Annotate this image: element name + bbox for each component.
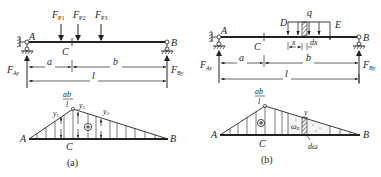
peak-denominator: l xyxy=(66,100,69,109)
dim-b: b xyxy=(113,56,118,67)
support-label-a: A xyxy=(220,25,228,36)
beam-a: A B C FP1 FP2 xyxy=(6,9,184,88)
influence-line-b: ab l y ωE dω A B C xyxy=(210,87,369,151)
load-label-q: q xyxy=(307,7,312,18)
support-label-a: A xyxy=(28,31,36,42)
load-fp2: FP2 xyxy=(72,9,85,40)
il-label-c: C xyxy=(259,138,266,149)
ordinate-y1: y1 xyxy=(52,109,59,118)
dim-x: x xyxy=(291,38,296,47)
beam-b: A B C D xyxy=(199,7,376,84)
ordinate-y2: y2 xyxy=(78,101,86,110)
il-label-b: B xyxy=(170,133,176,144)
figure-a: A B C FP1 FP2 xyxy=(6,9,184,169)
reaction-by: FBy xyxy=(170,64,184,76)
reaction-by: FBy xyxy=(362,59,376,71)
section-label-c: C xyxy=(254,41,261,52)
caption-b: (b) xyxy=(261,154,273,166)
il-label-b: B xyxy=(363,129,369,140)
dim-l: l xyxy=(92,70,95,81)
svg-text:FP3: FP3 xyxy=(94,9,107,21)
load-fp1: FP1 xyxy=(51,9,64,40)
support-label-b: B xyxy=(171,37,177,48)
differential-area: dω xyxy=(308,142,318,151)
load-start-d: D xyxy=(279,17,288,28)
influence-line-figure: A B C FP1 FP2 xyxy=(0,0,381,177)
positive-sign-icon xyxy=(84,123,91,130)
reaction-ay: FAy xyxy=(6,64,19,76)
il-label-a: A xyxy=(19,133,27,144)
peak-denominator: l xyxy=(258,97,261,106)
section-label-c: C xyxy=(62,46,69,57)
ordinate-y: y xyxy=(303,108,308,117)
ordinate-y3: y3 xyxy=(102,107,110,116)
support-label-b: B xyxy=(363,32,369,43)
peak-numerator: ab xyxy=(255,87,263,96)
il-label-a: A xyxy=(210,129,218,140)
dim-l: l xyxy=(285,68,288,79)
reaction-ay: FAy xyxy=(199,59,212,71)
svg-text:FP2: FP2 xyxy=(72,9,85,21)
dim-b: b xyxy=(306,52,311,63)
figure-b: A B C D xyxy=(199,7,376,166)
influence-line-a: ab l y1 y2 y3 A B C xyxy=(19,90,176,152)
il-label-c: C xyxy=(66,141,73,152)
caption-a: (a) xyxy=(67,157,78,169)
load-end-e: E xyxy=(334,19,341,30)
load-fp3: FP3 xyxy=(94,9,107,40)
peak-numerator: ab xyxy=(63,90,71,99)
dim-a: a xyxy=(47,56,52,67)
positive-sign-icon xyxy=(257,119,264,126)
dim-dx: dx xyxy=(310,38,318,47)
dim-a: a xyxy=(239,52,244,63)
distributed-load-q: D E q xyxy=(279,7,341,40)
svg-text:FP1: FP1 xyxy=(51,9,64,21)
